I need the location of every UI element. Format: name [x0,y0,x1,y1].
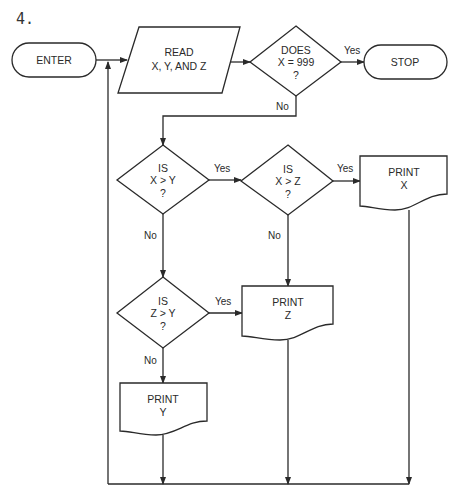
edge-label-zy-no: No [144,355,157,366]
print-z-document: PRINT Z [242,286,333,340]
print-x-line1: PRINT [388,166,420,178]
decision-x-999-line1: DOES [281,44,311,56]
decision-x-999-line3: ? [293,69,299,81]
stop-label: STOP [391,56,419,68]
decision-z-gt-y-line1: IS [158,295,168,307]
print-x-line2: X [400,179,407,191]
print-x-document: PRINT X [360,156,447,210]
read-label-1: READ [164,46,194,58]
decision-z-gt-y: IS Z > Y ? [117,277,209,348]
edge-label-xz-yes: Yes [337,163,353,174]
print-z-line1: PRINT [272,296,304,308]
edge-label-xy-no: No [144,230,157,241]
stop-terminal: STOP [364,45,447,79]
decision-x-gt-z-line2: X > Z [275,175,301,187]
decision-x-gt-z-line1: IS [283,163,293,175]
flowchart: ENTER READ X, Y, AND Z DOES X = 999 ? ST… [0,0,454,496]
print-y-document: PRINT Y [120,383,207,435]
print-z-line2: Z [285,309,292,321]
edge-label-zy-yes: Yes [215,296,231,307]
read-label-2: X, Y, AND Z [151,60,207,72]
decision-x-gt-y-line2: X > Y [150,174,176,186]
decision-x-gt-y-line1: IS [158,162,168,174]
print-y-line2: Y [159,406,166,418]
edge-label-does-yes: Yes [344,45,360,56]
print-y-line1: PRINT [147,393,179,405]
decision-x-gt-z-line3: ? [285,188,291,200]
decision-z-gt-y-line3: ? [160,320,166,332]
enter-label: ENTER [36,54,72,66]
enter-terminal: ENTER [12,43,96,77]
edge-label-xz-no: No [268,230,281,241]
edge-label-xy-yes: Yes [214,163,230,174]
decision-x-999: DOES X = 999 ? [250,26,341,96]
decision-x-gt-z: IS X > Z ? [241,145,333,215]
decision-x-gt-y-line3: ? [160,187,166,199]
edge-label-does-no: No [276,101,289,112]
decision-x-gt-y: IS X > Y ? [117,145,209,214]
decision-x-999-line2: X = 999 [278,56,315,68]
read-input-node: READ X, Y, AND Z [118,27,240,93]
decision-z-gt-y-line2: Z > Y [150,307,175,319]
